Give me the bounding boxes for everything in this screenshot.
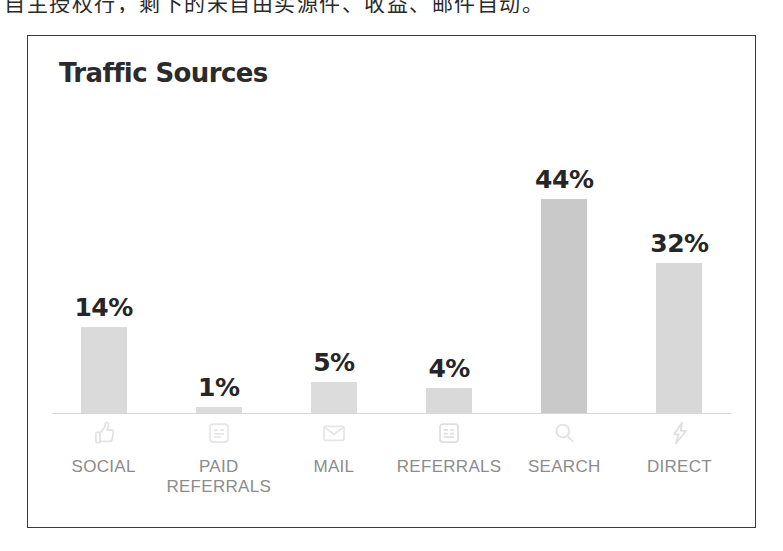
bar-mail[interactable] xyxy=(311,382,357,413)
bar-column-referrals: 4% xyxy=(392,106,507,413)
legend-label-mail: MAIL xyxy=(313,457,354,477)
bar-social[interactable] xyxy=(81,327,127,413)
bar-column-mail: 5% xyxy=(276,106,391,413)
legend-item-mail[interactable]: MAIL xyxy=(276,418,391,496)
search-icon xyxy=(549,418,579,448)
bar-column-paid-referrals: 1% xyxy=(161,106,276,413)
traffic-sources-card: Traffic Sources 14% 1% 5% 4% 44% xyxy=(27,35,756,528)
legend-item-direct[interactable]: DIRECT xyxy=(622,418,737,496)
legend-label-paid-referrals: PAID REFERRALS xyxy=(166,457,271,496)
bar-value-search: 44% xyxy=(535,165,593,194)
chart-plot-area: 14% 1% 5% 4% 44% 32% xyxy=(46,106,737,515)
bar-referrals[interactable] xyxy=(426,388,472,413)
paid-referrals-icon xyxy=(204,418,234,448)
bar-group: 14% 1% 5% 4% 44% 32% xyxy=(46,106,737,413)
lightning-bolt-icon xyxy=(664,418,694,448)
baseline-axis xyxy=(52,413,731,414)
category-legend: SOCIAL PAID REFERRALS xyxy=(46,418,737,496)
page-title: Traffic Sources xyxy=(59,58,268,88)
bar-column-direct: 32% xyxy=(622,106,737,413)
bar-value-direct: 32% xyxy=(650,229,708,258)
bar-value-referrals: 4% xyxy=(428,354,469,383)
legend-item-paid-referrals[interactable]: PAID REFERRALS xyxy=(161,418,276,496)
bar-value-paid-referrals: 1% xyxy=(198,373,239,402)
mail-icon xyxy=(319,418,349,448)
referrals-icon xyxy=(434,418,464,448)
bar-column-social: 14% xyxy=(46,106,161,413)
bar-direct[interactable] xyxy=(656,263,702,413)
legend-item-search[interactable]: SEARCH xyxy=(507,418,622,496)
bar-value-social: 14% xyxy=(74,293,132,322)
thumbs-up-icon xyxy=(89,418,119,448)
legend-label-search: SEARCH xyxy=(528,457,601,477)
legend-item-social[interactable]: SOCIAL xyxy=(46,418,161,496)
legend-label-direct: DIRECT xyxy=(647,457,712,477)
bar-value-mail: 5% xyxy=(313,348,354,377)
bar-search[interactable] xyxy=(541,199,587,413)
legend-label-social: SOCIAL xyxy=(72,457,136,477)
legend-item-referrals[interactable]: REFERRALS xyxy=(392,418,507,496)
legend-label-referrals: REFERRALS xyxy=(397,457,502,477)
bar-column-search: 44% xyxy=(507,106,622,413)
scanned-cjk-text: 自主授权行，剩下的未自由买源件、收益、邮件自动。 xyxy=(4,0,764,13)
